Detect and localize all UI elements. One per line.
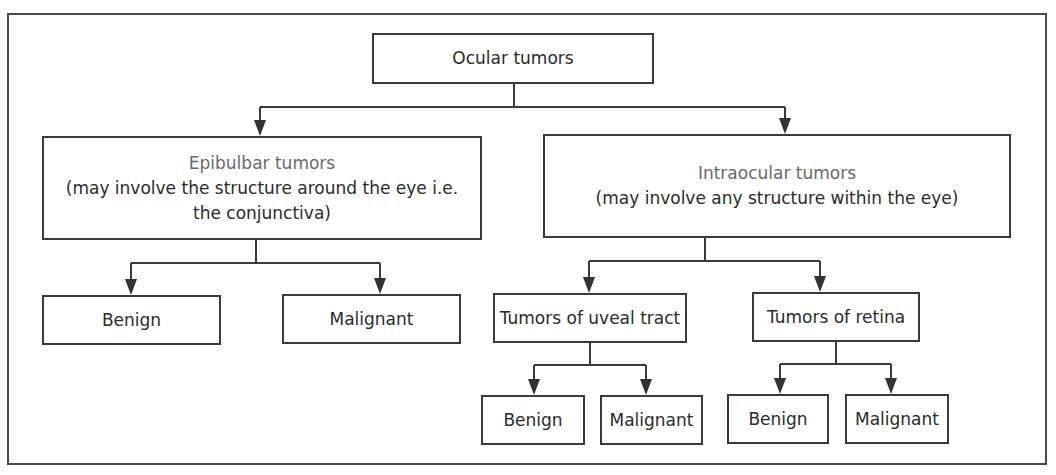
node-retina: Tumors of retina: [752, 292, 920, 342]
node-label: Benign: [748, 407, 807, 432]
node-ocular-tumors: Ocular tumors: [372, 33, 654, 84]
node-label: Tumors of uveal tract: [500, 306, 681, 331]
node-epibulbar-tumors: Epibulbar tumors (may involve the struct…: [42, 136, 482, 240]
node-uveal-benign: Benign: [481, 395, 585, 445]
node-title: Intraocular tumors: [698, 161, 856, 186]
node-title: Epibulbar tumors: [189, 151, 335, 176]
node-uveal-tract: Tumors of uveal tract: [493, 293, 687, 343]
node-label: Benign: [503, 408, 562, 433]
node-intraocular-tumors: Intraocular tumors (may involve any stru…: [543, 134, 1011, 238]
node-epibulbar-malignant: Malignant: [282, 294, 461, 344]
node-label: Malignant: [610, 408, 694, 433]
node-retina-benign: Benign: [727, 394, 829, 444]
node-uveal-malignant: Malignant: [600, 395, 703, 445]
node-retina-malignant: Malignant: [845, 394, 949, 444]
node-label: Tumors of retina: [767, 305, 905, 330]
node-description-line1: (may involve the structure around the ey…: [66, 176, 458, 201]
node-label: Malignant: [855, 407, 939, 432]
node-description-line2: the conjunctiva): [193, 201, 331, 226]
node-label: Benign: [102, 308, 161, 333]
node-description: (may involve any structure within the ey…: [596, 186, 959, 211]
node-label: Ocular tumors: [452, 46, 573, 71]
node-epibulbar-benign: Benign: [42, 295, 221, 345]
node-label: Malignant: [330, 307, 414, 332]
